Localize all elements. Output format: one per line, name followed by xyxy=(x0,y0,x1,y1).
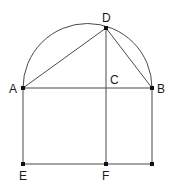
label-b: B xyxy=(157,82,165,96)
geometry-diagram: A B C D E F xyxy=(0,0,175,191)
label-d: D xyxy=(102,11,111,25)
point-f xyxy=(104,162,108,166)
segment-ad xyxy=(23,28,106,88)
label-c: C xyxy=(110,73,119,87)
point-d xyxy=(104,26,108,30)
label-a: A xyxy=(9,82,17,96)
label-f: F xyxy=(102,169,109,183)
semicircle-arc xyxy=(23,23,152,88)
point-b xyxy=(150,86,154,90)
label-e: E xyxy=(19,169,27,183)
point-e xyxy=(21,162,25,166)
point-a xyxy=(21,86,25,90)
point-corner xyxy=(150,162,154,166)
